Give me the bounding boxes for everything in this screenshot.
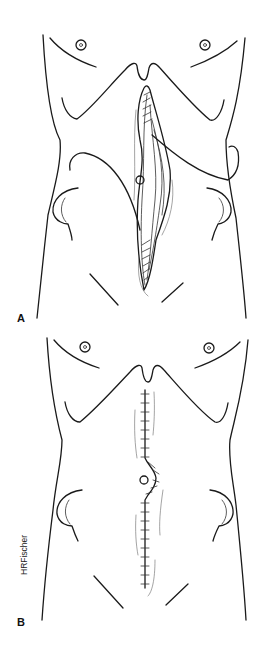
panel-label-a: A (17, 312, 25, 324)
torso-illustration-b (0, 330, 266, 655)
torso-right-outline (226, 38, 246, 318)
left-inguinal-line (94, 576, 123, 608)
left-pectoral-line (54, 340, 99, 368)
torso-left-outline (37, 35, 60, 318)
right-iliac-crest (207, 188, 231, 240)
right-pectoral-line (195, 342, 240, 368)
torso-left-outline (42, 338, 62, 620)
right-iliac-crest (210, 490, 233, 541)
right-nipple-icon (204, 343, 214, 353)
umbilicus-icon (140, 476, 148, 484)
torso-illustration-a (0, 0, 266, 330)
right-pectoral-line (191, 41, 237, 67)
artist-signature: HRFischer (19, 535, 29, 575)
right-inguinal-line (162, 283, 183, 302)
left-nipple-icon (80, 342, 90, 352)
right-nipple-icon (200, 40, 210, 50)
left-iliac-crest (53, 188, 78, 240)
panel-b-closed-incision: B (0, 330, 266, 655)
torso-right-outline (230, 340, 248, 620)
right-inguinal-line (166, 584, 188, 605)
left-iliac-crest (57, 490, 82, 541)
left-inguinal-line (90, 274, 118, 305)
panel-label-b: B (17, 616, 25, 628)
left-nipple-icon (76, 40, 86, 50)
panel-a-open-wound: A (0, 0, 266, 330)
left-pectoral-line (50, 38, 96, 67)
left-flank-fold (70, 153, 140, 230)
interrupted-sutures (141, 394, 159, 584)
